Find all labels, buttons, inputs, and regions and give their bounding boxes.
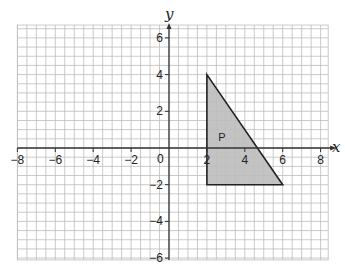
x-tick-label: 2 — [204, 153, 211, 167]
x-tick-label: 6 — [279, 153, 286, 167]
y-tick-label: 6 — [156, 31, 163, 45]
x-tick-label: −8 — [11, 153, 25, 167]
y-tick-label: −6 — [149, 251, 163, 265]
x-tick-label: 8 — [317, 153, 324, 167]
y-tick-label: 4 — [156, 68, 163, 82]
y-axis-label: y — [164, 5, 174, 23]
x-tick-label: 4 — [241, 153, 248, 167]
coordinate-grid-chart: P −8−6−4−22468642−2−4−6 x y 0 — [0, 0, 345, 266]
y-axis-arrow-icon — [167, 23, 172, 29]
x-axis-label: x — [332, 138, 341, 156]
x-tick-label: −2 — [124, 153, 138, 167]
shape-label-P: P — [218, 131, 225, 143]
grid-lines — [17, 25, 328, 260]
origin-label: 0 — [157, 152, 164, 166]
y-tick-label: 2 — [156, 104, 163, 118]
axes — [17, 23, 336, 260]
y-tick-label: −4 — [149, 214, 163, 228]
x-tick-label: −6 — [48, 153, 62, 167]
x-tick-label: −4 — [86, 153, 100, 167]
y-tick-label: −2 — [149, 178, 163, 192]
